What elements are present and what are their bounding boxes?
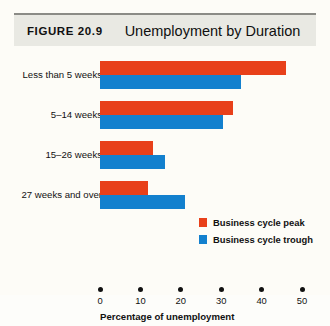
- bar-peak: [100, 181, 148, 195]
- bar-trough: [100, 195, 185, 209]
- x-axis-tick-label: 50: [297, 295, 307, 306]
- chart-plot-area: Less than 5 weeks5–14 weeks15–26 weeks27…: [0, 55, 330, 295]
- legend-swatch-trough: [199, 235, 207, 244]
- x-axis-tick-dot: [98, 287, 103, 292]
- figure-header: FIGURE 20.9 Unemployment by Duration: [14, 15, 316, 46]
- bar-peak: [100, 141, 153, 155]
- x-axis-tick-dot: [300, 287, 305, 292]
- x-axis-title: Percentage of unemployment: [100, 311, 234, 322]
- category-label: 15–26 weeks: [0, 142, 102, 168]
- figure-number-label: FIGURE 20.9: [27, 25, 103, 37]
- bar-group: Less than 5 weeks: [0, 61, 330, 89]
- bar-group: 5–14 weeks: [0, 101, 330, 129]
- legend-item: Business cycle peak: [199, 215, 313, 229]
- category-label: 5–14 weeks: [0, 102, 102, 128]
- bar-group: 27 weeks and over: [0, 181, 330, 209]
- legend-item: Business cycle trough: [199, 232, 313, 246]
- legend-swatch-peak: [199, 218, 207, 227]
- figure-title: Unemployment by Duration: [125, 23, 301, 39]
- bar-trough: [100, 155, 165, 169]
- bar-trough: [100, 75, 241, 89]
- x-axis-tick-label: 30: [216, 295, 226, 306]
- x-axis-tick-dot: [178, 287, 183, 292]
- legend-label-trough: Business cycle trough: [213, 234, 313, 245]
- bar-peak: [100, 61, 286, 75]
- x-axis-tick-label: 40: [256, 295, 266, 306]
- x-axis-tick-dot: [259, 287, 264, 292]
- category-label: Less than 5 weeks: [0, 62, 102, 88]
- x-axis-tick-label: 10: [135, 295, 145, 306]
- chart-legend: Business cycle peak Business cycle troug…: [199, 215, 313, 249]
- bar-peak: [100, 101, 233, 115]
- x-axis-tick-dot: [138, 287, 143, 292]
- x-axis-tick-label: 0: [97, 295, 102, 306]
- bar-group: 15–26 weeks: [0, 141, 330, 169]
- legend-label-peak: Business cycle peak: [213, 217, 305, 228]
- category-label: 27 weeks and over: [0, 182, 102, 208]
- x-axis-tick-dot: [219, 287, 224, 292]
- bar-trough: [100, 115, 223, 129]
- x-axis: 01020304050 Percentage of unemployment: [0, 287, 330, 326]
- x-axis-tick-label: 20: [176, 295, 186, 306]
